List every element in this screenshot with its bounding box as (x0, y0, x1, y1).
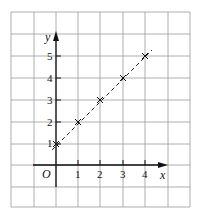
x-axis-label: x (159, 168, 166, 182)
x-ticks (78, 160, 145, 165)
y-tick-label: 1 (47, 137, 53, 149)
y-ticks (56, 56, 61, 144)
y-axis-label: y (44, 30, 51, 44)
y-tick-label: 3 (47, 94, 53, 106)
coordinate-plot: x y O 1 2 3 4 1 2 3 4 5 (0, 0, 202, 220)
x-tick-label: 4 (142, 168, 148, 180)
x-tick-label: 1 (75, 168, 81, 180)
y-tick-label: 2 (47, 116, 53, 128)
x-tick-label: 2 (97, 168, 103, 180)
y-tick-label: 4 (47, 72, 53, 84)
x-tick-label: 3 (120, 168, 126, 180)
y-tick-label: 5 (47, 50, 53, 62)
y-axis-arrow-icon (53, 31, 59, 41)
origin-label: O (42, 167, 51, 181)
